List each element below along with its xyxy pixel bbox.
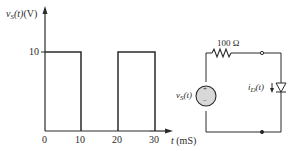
- pulse-2: [118, 52, 155, 131]
- source-minus-sign: −: [203, 98, 207, 105]
- source-label: vS(t): [176, 91, 192, 102]
- y-tick-label-10: 10: [29, 47, 39, 57]
- y-axis-label: vS(t)(V): [6, 9, 37, 21]
- diode-current-label: iD(t): [248, 83, 264, 94]
- figure-canvas: [0, 0, 298, 151]
- circuit-diagram: [196, 49, 286, 134]
- wire-bottom: [206, 111, 281, 132]
- y-label-arg: (t): [14, 8, 23, 19]
- x-axis-arrow-icon: [165, 129, 173, 134]
- resistor: [212, 49, 231, 57]
- diode-icon: [276, 83, 286, 92]
- waveform-plot: [41, 6, 173, 134]
- y-label-unit: (V): [23, 8, 37, 19]
- y-axis-arrow-icon: [43, 6, 48, 14]
- x-label-unit: (mS): [176, 135, 196, 146]
- x-axis-label: t (mS): [171, 136, 196, 146]
- terminal-bottom: [260, 130, 263, 133]
- current-arrow-icon: [270, 88, 274, 93]
- x-tick-label-10: 10: [75, 135, 85, 145]
- source-label-arg: (t): [184, 90, 193, 100]
- diode-current-arg: (t): [256, 82, 265, 92]
- source-plus-sign: +: [203, 86, 207, 93]
- pulse-1: [45, 52, 81, 131]
- terminal-top: [260, 51, 263, 54]
- wire-left-top: [206, 53, 212, 82]
- x-tick-label-30: 30: [149, 135, 159, 145]
- x-tick-label-20: 20: [112, 135, 122, 145]
- x-label-var: t: [171, 135, 174, 146]
- x-tick-label-0: 0: [42, 135, 47, 145]
- resistor-label: 100 Ω: [217, 39, 239, 48]
